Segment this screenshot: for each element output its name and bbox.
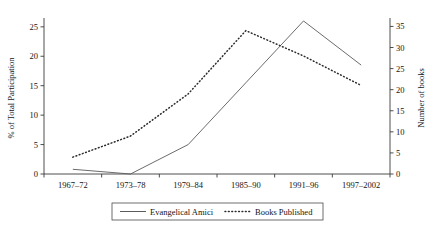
x-axis-category-label: 1991–96	[289, 180, 319, 190]
right-tick-label: 25	[396, 64, 405, 74]
right-tick-label: 35	[396, 21, 405, 31]
x-axis-category-label: 1985–90	[231, 180, 261, 190]
left-axis-title: % of Total Participation	[6, 57, 16, 139]
series-line-2	[73, 31, 361, 157]
left-tick-label: 20	[30, 51, 39, 61]
x-axis-ticks	[44, 174, 390, 178]
right-tick-label: 10	[396, 127, 405, 137]
right-axis-ticks: 05101520253035	[390, 21, 405, 179]
series-layer	[73, 21, 361, 174]
right-tick-label: 30	[396, 43, 405, 53]
right-axis: 05101520253035 Number of books	[390, 18, 426, 179]
chart-legend: Evangelical AmiciBooks Published	[112, 203, 323, 220]
chart-figure: 0510152025 % of Total Participation 0510…	[0, 0, 435, 228]
left-tick-label: 25	[30, 22, 39, 32]
x-axis-category-label: 1967–72	[58, 180, 88, 190]
left-tick-label: 5	[34, 140, 38, 150]
left-tick-label: 0	[34, 169, 38, 179]
x-axis-labels: 1967–721973–781979–841985–901991–961997–…	[58, 180, 380, 190]
x-axis-category-label: 1979–84	[173, 180, 204, 190]
left-tick-label: 10	[30, 110, 39, 120]
right-tick-label: 5	[396, 148, 400, 158]
x-axis: 1967–721973–781979–841985–901991–961997–…	[44, 174, 390, 190]
right-axis-title: Number of books	[416, 68, 426, 128]
x-axis-category-label: 1997–2002	[342, 180, 380, 190]
series-line-1	[73, 21, 361, 174]
left-axis-ticks: 0510152025	[30, 22, 45, 179]
left-axis: 0510152025 % of Total Participation	[6, 18, 44, 179]
right-tick-label: 20	[396, 85, 405, 95]
x-axis-category-label: 1973–78	[116, 180, 146, 190]
chart-svg: 0510152025 % of Total Participation 0510…	[0, 0, 435, 228]
left-tick-label: 15	[30, 81, 39, 91]
legend-label-1: Evangelical Amici	[150, 207, 214, 217]
right-tick-label: 0	[396, 169, 400, 179]
legend-label-2: Books Published	[255, 207, 313, 217]
right-tick-label: 15	[396, 106, 405, 116]
